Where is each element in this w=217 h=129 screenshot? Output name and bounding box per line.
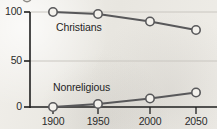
series-nonreligious-point-2050 [192, 88, 200, 96]
x-axis-label-2000: 2000 [128, 115, 172, 127]
series-nonreligious-line [53, 93, 196, 108]
series-label-christians: Christians [56, 21, 102, 33]
gridlines [30, 12, 217, 61]
clipped-marker-artifact [23, 0, 31, 2]
y-axis-label-0: 0 [0, 100, 22, 112]
series-label-nonreligious: Nonreligious [53, 81, 110, 93]
series-nonreligious-point-2000 [146, 94, 154, 102]
series-christians-point-2050 [192, 26, 200, 34]
y-axis-label-100: 100 [0, 5, 22, 17]
y-axis [24, 12, 30, 108]
line-chart-figure: 100 50 0 1900 1950 2000 2050 Christians … [0, 0, 217, 129]
series-nonreligious-point-1900 [49, 103, 57, 111]
series-christians-point-1950 [94, 10, 102, 18]
x-axis-label-2050: 2050 [174, 115, 217, 127]
x-axis-label-1900: 1900 [31, 115, 75, 127]
chart-plot-area [0, 0, 217, 129]
y-axis-label-50: 50 [0, 54, 22, 66]
x-axis [30, 107, 217, 114]
series-christians-point-2000 [146, 17, 154, 25]
series-christians-point-1900 [49, 8, 57, 16]
x-axis-label-1950: 1950 [76, 115, 120, 127]
series-nonreligious-point-1950 [94, 100, 102, 108]
